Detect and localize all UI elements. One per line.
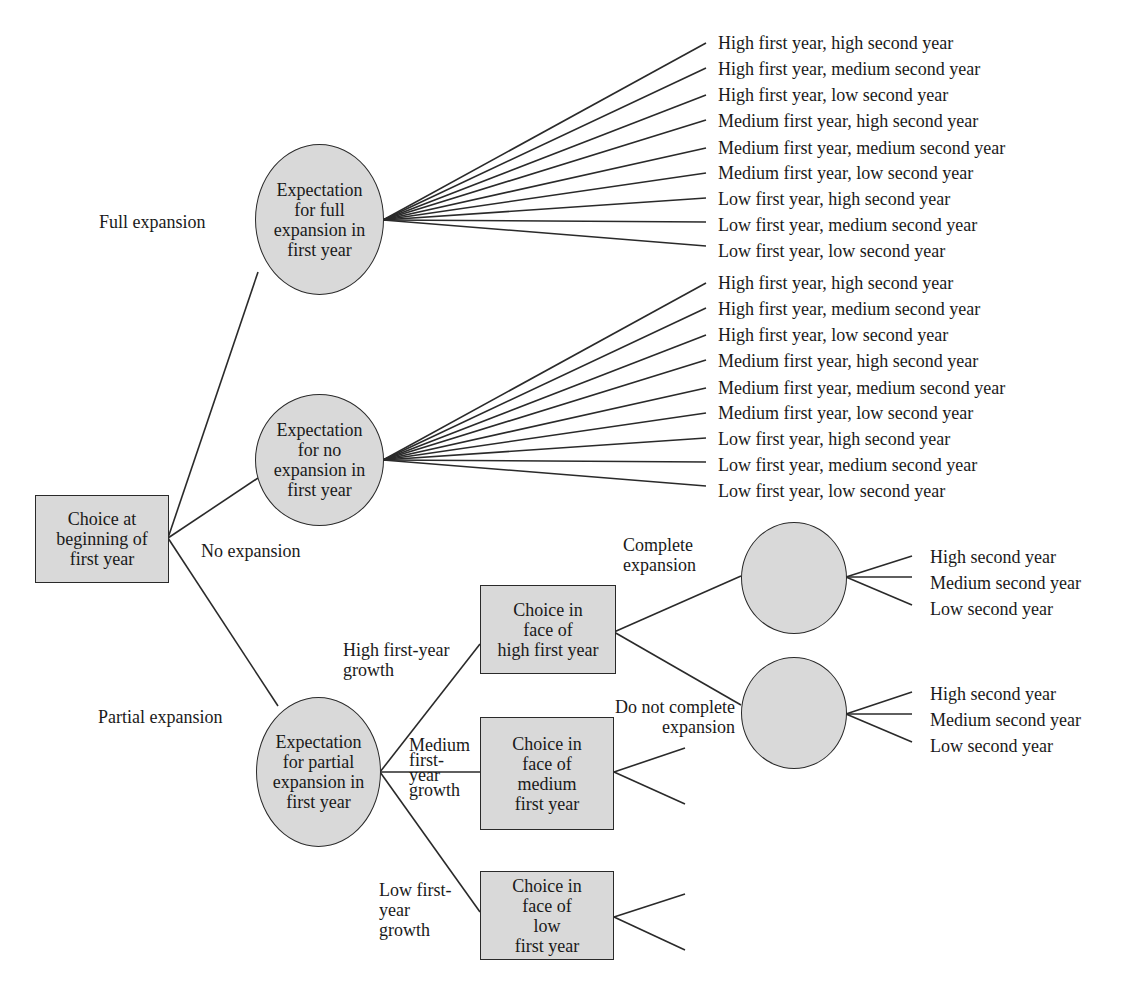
outcome-label: Low first year, medium second year: [718, 215, 977, 235]
outcome-label: Medium first year, low second year: [718, 163, 973, 183]
outcome-label: Medium second year: [930, 710, 1081, 730]
outcome-label: Low second year: [930, 599, 1053, 619]
branch-label-full-expansion: Full expansion: [99, 212, 206, 232]
decision-node-medium-label: Choice in face of medium first year: [512, 734, 582, 814]
chance-node-none-label: Expectation for no expansion in first ye…: [274, 420, 366, 500]
outcome-label: Low first year, low second year: [718, 481, 945, 501]
root-decision-node: Choice at beginning of first year: [35, 495, 169, 583]
root-decision-label: Choice at beginning of first year: [56, 509, 148, 569]
outcome-label: High first year, high second year: [718, 33, 953, 53]
outcome-label: High first year, medium second year: [718, 299, 980, 319]
decision-node-low-first-year: Choice in face of low first year: [480, 871, 614, 960]
chance-node-no-expansion: Expectation for no expansion in first ye…: [255, 394, 384, 526]
outcome-label: High first year, high second year: [718, 273, 953, 293]
decision-node-high-first-year: Choice in face of high first year: [480, 585, 616, 674]
outcome-label: High first year, low second year: [718, 325, 948, 345]
outcome-label: Medium second year: [930, 573, 1081, 593]
chance-node-complete-expansion: [741, 522, 847, 634]
chance-node-partial-label: Expectation for partial expansion in fir…: [273, 732, 365, 812]
branch-label-no-expansion: No expansion: [201, 541, 300, 561]
branch-label-medium-growth: Medium first- year growth: [409, 738, 470, 798]
branch-label-partial-expansion: Partial expansion: [98, 707, 222, 727]
outcome-label: High second year: [930, 684, 1056, 704]
decision-node-high-label: Choice in face of high first year: [498, 600, 599, 660]
outcome-label: Medium first year, high second year: [718, 111, 978, 131]
chance-node-full-expansion: Expectation for full expansion in first …: [255, 144, 384, 295]
outcome-label: High first year, low second year: [718, 85, 948, 105]
branch-label-complete-expansion: Complete expansion: [623, 535, 696, 575]
branch-label-low-growth: Low first- year growth: [379, 880, 451, 940]
outcome-label: Low first year, medium second year: [718, 455, 977, 475]
outcome-label: Low first year, high second year: [718, 189, 950, 209]
branch-label-high-growth: High first-year growth: [343, 640, 449, 680]
chance-node-partial-expansion: Expectation for partial expansion in fir…: [256, 697, 381, 847]
chance-node-not-complete-expansion: [741, 657, 847, 769]
decision-node-low-label: Choice in face of low first year: [512, 876, 582, 956]
outcome-label: Medium first year, medium second year: [718, 138, 1005, 158]
outcome-label: Medium first year, low second year: [718, 403, 973, 423]
outcome-label: High first year, medium second year: [718, 59, 980, 79]
branch-label-do-not-complete: Do not complete expansion: [593, 697, 735, 737]
outcome-label: High second year: [930, 547, 1056, 567]
decision-tree-diagram: Choice at beginning of first year Full e…: [0, 0, 1132, 988]
outcome-label: Medium first year, medium second year: [718, 378, 1005, 398]
outcome-label: Low second year: [930, 736, 1053, 756]
outcome-label: Medium first year, high second year: [718, 351, 978, 371]
outcome-label: Low first year, low second year: [718, 241, 945, 261]
chance-node-full-label: Expectation for full expansion in first …: [274, 180, 366, 260]
outcome-label: Low first year, high second year: [718, 429, 950, 449]
